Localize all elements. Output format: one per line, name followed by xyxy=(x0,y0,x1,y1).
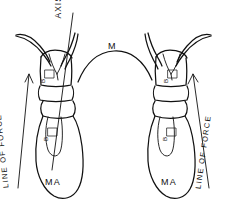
right-middle-segment-1 xyxy=(154,86,189,102)
left-head-cleft-right xyxy=(57,54,65,74)
diagram-linework xyxy=(0,0,227,215)
muscle-arc xyxy=(78,51,152,82)
segment-lower-left-label: B xyxy=(43,137,49,141)
left-upper-segment-label-box xyxy=(45,70,54,78)
left-upper-outer-branch xyxy=(16,35,50,62)
left-structure xyxy=(16,13,83,198)
left-head-cleft-stem xyxy=(57,74,58,80)
left-middle-segment-1 xyxy=(39,86,74,102)
muscle-label: M xyxy=(108,42,116,51)
muscle-connector xyxy=(78,51,152,82)
right-upper-outer-branch xyxy=(177,35,211,62)
segment-lower-right-label: B xyxy=(162,137,168,141)
left-middle-segment-2 xyxy=(41,101,76,118)
diagram-canvas: AXIS M LINE OF FORCE LINE OF FORCE MA MA… xyxy=(0,0,227,215)
axis-label: AXIS xyxy=(54,0,63,19)
mass-left-label: MA xyxy=(45,178,61,187)
right-head-cleft-left xyxy=(163,54,171,74)
segment-upper-right-label: B xyxy=(163,79,169,83)
right-head-cleft-stem xyxy=(171,74,172,80)
axis-line xyxy=(52,13,73,170)
left-lower-segment-label-box xyxy=(48,128,57,136)
right-head-cleft-right xyxy=(171,54,180,74)
segment-upper-left-label: B xyxy=(40,79,46,83)
line-of-force-left-shaft xyxy=(18,74,29,188)
mass-right-label: MA xyxy=(161,178,177,187)
right-middle-segment-2 xyxy=(153,101,188,118)
